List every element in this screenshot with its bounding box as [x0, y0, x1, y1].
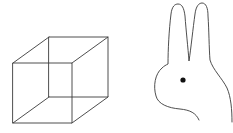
duck-rabbit [155, 3, 232, 122]
cube-edge-bottom-left [13, 97, 49, 123]
rabbit-head-outline [155, 3, 232, 122]
illustration-canvas [0, 0, 233, 133]
necker-cube [13, 37, 108, 123]
cube-edge-top-left [13, 37, 49, 63]
rabbit-eye [180, 77, 185, 82]
cube-back-face [49, 37, 108, 97]
cube-edge-bottom-right [72, 97, 108, 123]
cube-front-face [13, 63, 72, 123]
cube-edge-top-right [72, 37, 108, 63]
